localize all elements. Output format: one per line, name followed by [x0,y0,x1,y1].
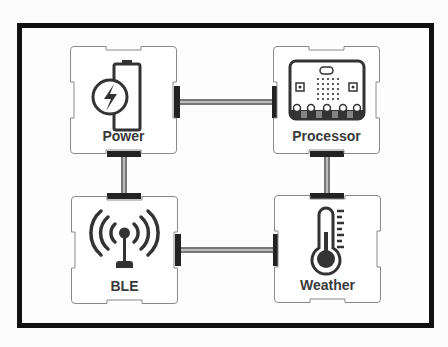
link-power-processor [172,86,280,118]
module-label: BLE [71,278,178,294]
module-weather[interactable]: Weather [274,195,381,303]
module-label: Power [70,128,177,144]
module-ble[interactable]: BLE [71,196,178,304]
link-ble-weather [173,234,281,266]
module-label: Weather [274,277,381,293]
link-processor-weather [310,149,344,201]
module-label: Processor [273,128,380,144]
module-power[interactable]: Power [70,46,177,154]
link-power-ble [107,149,141,201]
module-processor[interactable]: Processor [273,46,380,154]
